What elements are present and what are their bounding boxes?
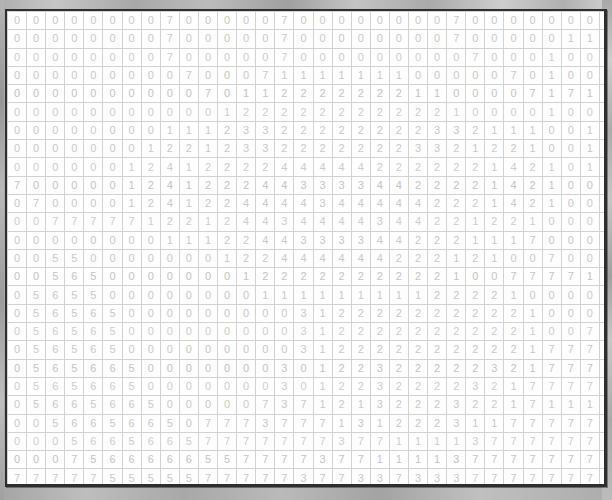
grid-cell[interactable]: 7 — [198, 469, 217, 487]
grid-cell[interactable]: 0 — [179, 414, 198, 432]
grid-cell[interactable]: 2 — [389, 414, 408, 432]
grid-cell[interactable]: 4 — [275, 231, 294, 249]
grid-cell[interactable]: 3 — [332, 176, 351, 194]
grid-cell[interactable]: 7 — [275, 48, 294, 66]
grid-cell[interactable]: 1 — [485, 414, 504, 432]
grid-cell[interactable]: 3 — [351, 176, 370, 194]
grid-cell[interactable]: 0 — [160, 249, 179, 267]
grid-cell[interactable]: 7 — [580, 377, 599, 395]
grid-cell[interactable]: 0 — [408, 30, 427, 48]
grid-cell[interactable]: 0 — [599, 12, 607, 30]
grid-cell[interactable]: 6 — [141, 451, 160, 469]
grid-cell[interactable]: 1 — [580, 268, 599, 286]
grid-cell[interactable]: 2 — [447, 341, 466, 359]
grid-cell[interactable]: 0 — [179, 377, 198, 395]
grid-cell[interactable]: 0 — [46, 103, 65, 121]
grid-cell[interactable]: 0 — [8, 194, 27, 212]
grid-cell[interactable]: 4 — [256, 176, 275, 194]
grid-cell[interactable]: 0 — [198, 249, 217, 267]
grid-cell[interactable]: 4 — [313, 158, 332, 176]
grid-cell[interactable]: 0 — [65, 85, 84, 103]
grid-cell[interactable]: 0 — [561, 121, 580, 139]
grid-cell[interactable]: 1 — [542, 48, 561, 66]
grid-cell[interactable]: 0 — [294, 377, 313, 395]
grid-cell[interactable]: 5 — [65, 432, 84, 450]
grid-cell[interactable]: 7 — [523, 377, 542, 395]
grid-cell[interactable]: 7 — [160, 30, 179, 48]
grid-cell[interactable]: 0 — [179, 85, 198, 103]
grid-cell[interactable]: 1 — [198, 213, 217, 231]
grid-cell[interactable]: 0 — [27, 176, 46, 194]
grid-cell[interactable]: 2 — [332, 304, 351, 322]
grid-cell[interactable]: 1 — [141, 140, 160, 158]
grid-cell[interactable]: 0 — [580, 286, 599, 304]
grid-cell[interactable]: 0 — [141, 12, 160, 30]
grid-cell[interactable]: 4 — [370, 249, 389, 267]
grid-cell[interactable]: 2 — [218, 231, 237, 249]
grid-cell[interactable]: 0 — [504, 249, 523, 267]
grid-cell[interactable]: 0 — [179, 249, 198, 267]
grid-cell[interactable]: 0 — [122, 268, 141, 286]
grid-cell[interactable]: 7 — [447, 30, 466, 48]
grid-cell[interactable]: 2 — [466, 396, 485, 414]
grid-cell[interactable]: 2 — [237, 176, 256, 194]
grid-cell[interactable]: 3 — [294, 304, 313, 322]
grid-cell[interactable]: 0 — [599, 249, 607, 267]
grid-cell[interactable]: 6 — [46, 377, 65, 395]
grid-cell[interactable]: 2 — [256, 268, 275, 286]
grid-cell[interactable]: 0 — [351, 12, 370, 30]
grid-cell[interactable]: 5 — [65, 323, 84, 341]
grid-cell[interactable]: 1 — [466, 213, 485, 231]
grid-cell[interactable]: 2 — [408, 158, 427, 176]
grid-cell[interactable]: 0 — [218, 85, 237, 103]
grid-cell[interactable]: 4 — [351, 194, 370, 212]
grid-cell[interactable]: 0 — [485, 268, 504, 286]
grid-cell[interactable]: 0 — [122, 48, 141, 66]
grid-cell[interactable]: 1 — [408, 85, 427, 103]
grid-cell[interactable]: 0 — [122, 249, 141, 267]
grid-cell[interactable]: 0 — [46, 66, 65, 84]
grid-cell[interactable]: 1 — [561, 396, 580, 414]
grid-cell[interactable]: 1 — [428, 432, 447, 450]
grid-cell[interactable]: 7 — [485, 469, 504, 487]
grid-cell[interactable]: 2 — [504, 140, 523, 158]
grid-cell[interactable]: 7 — [523, 268, 542, 286]
grid-cell[interactable]: 1 — [160, 231, 179, 249]
grid-cell[interactable]: 1 — [523, 304, 542, 322]
grid-cell[interactable]: 1 — [599, 377, 607, 395]
grid-cell[interactable]: 2 — [485, 396, 504, 414]
grid-cell[interactable]: 0 — [65, 231, 84, 249]
grid-cell[interactable]: 0 — [542, 30, 561, 48]
grid-cell[interactable]: 6 — [84, 359, 103, 377]
grid-cell[interactable]: 7 — [542, 359, 561, 377]
grid-cell[interactable]: 7 — [561, 432, 580, 450]
grid-cell[interactable]: 2 — [447, 286, 466, 304]
grid-cell[interactable]: 7 — [599, 323, 607, 341]
grid-cell[interactable]: 6 — [179, 451, 198, 469]
grid-cell[interactable]: 2 — [370, 158, 389, 176]
grid-cell[interactable]: 1 — [198, 121, 217, 139]
grid-cell[interactable]: 0 — [218, 12, 237, 30]
grid-cell[interactable]: 0 — [84, 66, 103, 84]
grid-cell[interactable]: 7 — [523, 85, 542, 103]
grid-cell[interactable]: 2 — [447, 194, 466, 212]
grid-cell[interactable]: 2 — [447, 323, 466, 341]
grid-cell[interactable]: 0 — [523, 286, 542, 304]
grid-cell[interactable]: 6 — [84, 377, 103, 395]
grid-cell[interactable]: 0 — [485, 48, 504, 66]
grid-cell[interactable]: 6 — [103, 359, 122, 377]
grid-cell[interactable]: 7 — [46, 469, 65, 487]
grid-cell[interactable]: 0 — [237, 359, 256, 377]
grid-cell[interactable]: 2 — [313, 140, 332, 158]
grid-cell[interactable]: 5 — [218, 451, 237, 469]
grid-cell[interactable]: 0 — [46, 30, 65, 48]
grid-cell[interactable]: 0 — [122, 304, 141, 322]
grid-cell[interactable]: 0 — [103, 194, 122, 212]
grid-cell[interactable]: 3 — [428, 140, 447, 158]
grid-cell[interactable]: 0 — [485, 103, 504, 121]
grid-cell[interactable]: 7 — [351, 451, 370, 469]
grid-cell[interactable]: 1 — [504, 377, 523, 395]
grid-cell[interactable]: 2 — [428, 268, 447, 286]
grid-cell[interactable]: 0 — [561, 249, 580, 267]
grid-cell[interactable]: 7 — [485, 451, 504, 469]
